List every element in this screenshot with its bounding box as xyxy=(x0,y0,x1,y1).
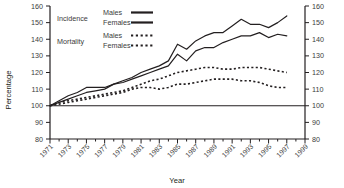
y-tick-label-left-160: 160 xyxy=(31,2,43,11)
y-tick-label-right-90: 90 xyxy=(312,118,320,127)
legend-group-incidence: Incidence xyxy=(57,14,88,23)
y-tick-label-left-140: 140 xyxy=(31,35,43,44)
chart-figure: Percentage 8090100110120130140150160 809… xyxy=(0,0,344,188)
y-tick-label-left-120: 120 xyxy=(31,68,43,77)
y-tick-label-left-80: 80 xyxy=(35,135,43,144)
y-tick-label-right-140: 140 xyxy=(312,35,324,44)
y-tick-label-right-130: 130 xyxy=(312,51,324,60)
y-tick-label-right-110: 110 xyxy=(312,85,323,94)
y-tick-label-left-100: 100 xyxy=(31,101,43,110)
y-tick-label-right-150: 150 xyxy=(312,18,324,27)
y-tick-label-right-120: 120 xyxy=(312,68,324,77)
y-tick-label-right-100: 100 xyxy=(312,101,324,110)
y-axis-title: Percentage xyxy=(4,71,13,110)
legend-group-mortality: Mortality xyxy=(57,37,85,46)
chart-background xyxy=(0,0,344,188)
y-tick-label-right-80: 80 xyxy=(312,135,320,144)
incidence-mortality-line-chart: Percentage 8090100110120130140150160 809… xyxy=(0,0,344,188)
legend-incidence-females-label: Females xyxy=(103,18,131,27)
x-axis-title: Year xyxy=(169,176,185,185)
legend-mortality-females-label: Females xyxy=(103,41,131,50)
y-tick-label-left-150: 150 xyxy=(31,18,43,27)
legend-incidence-males-label: Males xyxy=(103,8,123,17)
y-tick-label-right-160: 160 xyxy=(312,2,324,11)
y-tick-label-left-110: 110 xyxy=(32,85,43,94)
y-tick-label-left-90: 90 xyxy=(35,118,43,127)
y-tick-label-left-130: 130 xyxy=(31,51,43,60)
legend-mortality-males-label: Males xyxy=(103,31,123,40)
